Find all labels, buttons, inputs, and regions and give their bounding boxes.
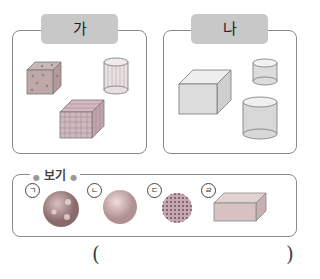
example-title: ● 보기 ● (30, 166, 80, 183)
striped-cylinder-icon (104, 57, 130, 95)
flat-cuboid-icon (214, 193, 270, 225)
plain-sphere-icon (103, 190, 139, 226)
grid-cuboid-icon (60, 100, 106, 140)
option-marker-3: ㄷ (147, 183, 162, 198)
answer-field[interactable] (104, 245, 284, 267)
small-cylinder-icon (253, 58, 279, 86)
option-marker-2: ㄴ (87, 183, 102, 198)
answer-open-paren: ( (92, 242, 100, 266)
plain-cube-icon (179, 70, 233, 116)
answer-close-paren: ) (286, 242, 294, 266)
group-ga-label: 가 (41, 14, 118, 44)
large-cylinder-icon (243, 96, 279, 140)
patterned-sphere-icon (42, 190, 80, 228)
bullet-icon: ● (70, 173, 77, 182)
bullet-icon: ● (33, 173, 40, 182)
option-marker-1: ㄱ (25, 183, 40, 198)
dotted-circle-icon (161, 192, 193, 224)
group-na-label: 나 (191, 14, 268, 44)
dotted-cube-icon (27, 62, 67, 98)
